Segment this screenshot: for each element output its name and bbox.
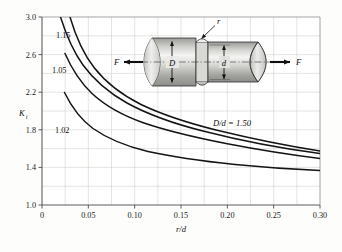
x-axis-title: r/d: [176, 224, 187, 234]
force-label-right: F: [295, 57, 302, 67]
figure-container: 3.0 2.6 2.2 1.8 1.4 1.0 K t 0 0.05 0.10 …: [0, 0, 342, 252]
x-tick-label: 0.25: [267, 211, 281, 220]
stress-concentration-chart: 3.0 2.6 2.2 1.8 1.4 1.0 K t 0 0.05 0.10 …: [0, 0, 342, 252]
x-tick-label: 0.10: [128, 211, 142, 220]
curve-label-1-02: 1.02: [55, 126, 70, 135]
y-tick-label: 3.0: [26, 13, 36, 22]
curve-label-dd-ratio: D/d = 1.50: [212, 118, 252, 128]
x-tick-label: 0: [40, 211, 44, 220]
dimension-label-d: d: [222, 58, 227, 68]
y-tick-label: 1.0: [26, 201, 36, 210]
x-tick-label: 0.15: [174, 211, 188, 220]
y-tick-label: 2.2: [26, 88, 36, 97]
y-tick-label: 1.8: [26, 126, 36, 135]
x-tick-label: 0.30: [313, 211, 327, 220]
force-label-left: F: [113, 57, 120, 67]
y-tick-label: 2.6: [26, 51, 36, 60]
y-tick-label: 1.4: [26, 163, 36, 172]
curve-label-1-05: 1.05: [52, 66, 67, 75]
curve-label-1-15: 1.15: [56, 31, 71, 40]
x-tick-label: 0.20: [220, 211, 234, 220]
x-tick-label: 0.05: [81, 211, 95, 220]
dimension-label-D: D: [168, 58, 176, 68]
